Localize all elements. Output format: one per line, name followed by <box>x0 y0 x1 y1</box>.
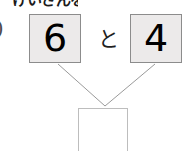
answer-input-box[interactable] <box>78 108 128 151</box>
conjunction-label: と <box>92 22 124 56</box>
worksheet-page: けいさんを しよう ) 6 と 4 <box>0 0 189 151</box>
addend-card-left: 6 <box>29 14 81 63</box>
left-margin-glyph: ) <box>0 14 8 40</box>
addend-card-right: 4 <box>130 14 182 63</box>
connector-line-left <box>58 64 105 106</box>
connector-line-right <box>105 64 155 106</box>
header-text-cropped: けいさんを しよう <box>12 0 78 10</box>
